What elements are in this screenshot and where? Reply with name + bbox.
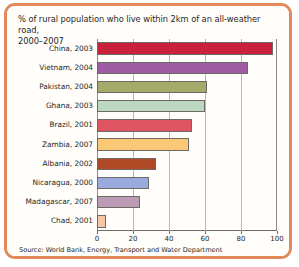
category-label: China, 2003 [19,44,93,53]
category-label: Brazil, 2001 [19,120,93,129]
tick-label: 20 [129,235,138,243]
bar [97,158,156,170]
bar-row: Madagascar, 2007 [19,193,277,212]
chart-card-inner: % of rural population who live within 2k… [7,6,289,256]
bar-row: Brazil, 2001 [19,116,277,135]
tick-label: 100 [270,235,283,243]
tick-label: 60 [201,235,210,243]
tick-label: 0 [95,235,99,243]
tick-100 [277,231,278,234]
bar-row: Nicaragua, 2000 [19,173,277,192]
bar [97,81,207,93]
category-label: Ghana, 2003 [19,101,93,110]
category-label: Zambia, 2007 [19,140,93,149]
bar-row: Zambia, 2007 [19,135,277,154]
bar [97,177,149,189]
tick-label: 80 [237,235,246,243]
category-label: Nicaragua, 2000 [19,178,93,187]
tick-label: 40 [165,235,174,243]
tick-60 [205,231,206,234]
bar-row: China, 2003 [19,39,277,58]
bar [97,100,205,112]
category-label: Chad, 2001 [19,216,93,225]
tick-80 [241,231,242,234]
bar-chart-plot: China, 2003Vietnam, 2004Pakistan, 2004Gh… [19,39,277,231]
bar [97,215,106,227]
bar [97,62,248,74]
tick-40 [169,231,170,234]
source-note: Source: World Bank, Energy, Transport an… [19,246,222,254]
tick-0 [97,231,98,234]
chart-title-line1: % of rural population who live within 2k… [18,14,260,35]
category-label: Albania, 2002 [19,159,93,168]
bar-row: Vietnam, 2004 [19,58,277,77]
tick-20 [133,231,134,234]
bar-row: Chad, 2001 [19,212,277,231]
category-label: Vietnam, 2004 [19,63,93,72]
bar-row: Albania, 2002 [19,154,277,173]
category-label: Madagascar, 2007 [19,197,93,206]
category-label: Pakistan, 2004 [19,82,93,91]
bar-row: Pakistan, 2004 [19,77,277,96]
bar [97,138,189,150]
chart-card: % of rural population who live within 2k… [4,3,292,259]
bar [97,196,140,208]
bar [97,119,192,131]
bar [97,42,273,54]
bar-row: Ghana, 2003 [19,97,277,116]
